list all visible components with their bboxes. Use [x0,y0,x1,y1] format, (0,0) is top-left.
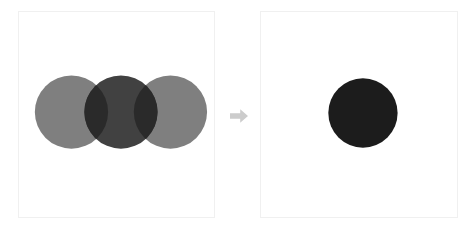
result-circle [328,78,397,147]
source-panel: Three overlapping circles [18,11,215,218]
source-panel-canvas [19,12,214,217]
result-panel: Single merged circle [260,11,458,218]
arrow-right-icon: becomes [229,105,249,127]
figure-root: Overlapping circles blended into a singl… [0,0,476,235]
arrow-right-glyph [229,105,249,127]
result-panel-canvas [261,12,457,217]
